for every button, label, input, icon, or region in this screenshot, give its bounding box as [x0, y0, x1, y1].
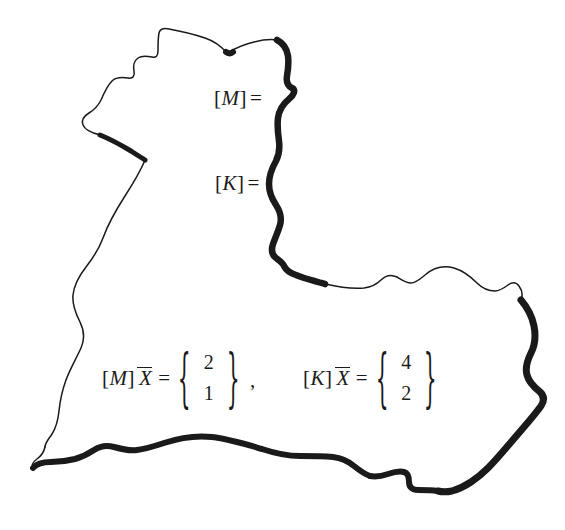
mass-label-close-bracket: ]	[240, 86, 248, 110]
blob-outline-thin-right-shoulder	[325, 267, 522, 300]
stiffness-eq-brace-open: {	[376, 346, 389, 410]
mass-eq-brace-close: }	[227, 346, 240, 410]
stiffness-label-equals: =	[245, 171, 260, 195]
stiffness-eq-close-bracket: ]	[325, 366, 333, 390]
blob-outline-thick-upper-left-wedge	[100, 135, 145, 160]
stiffness-label-open-bracket: [	[215, 171, 223, 195]
stiffness-eq-matrix-symbol: K	[311, 366, 326, 390]
stiffness-eq-value-1: 2	[401, 378, 411, 409]
mass-eq-vector-letter: X	[139, 366, 152, 390]
blob-outline-thick-bottom-right-notch	[370, 472, 438, 491]
figure-canvas: [M]= [K]= [M]X= { 2 1 } , [K]X= { 4 2 }	[0, 0, 565, 530]
mass-eq-matrix-symbol: M	[110, 366, 128, 390]
mass-eq-value-1: 1	[204, 378, 214, 409]
stiffness-label-close-bracket: ]	[237, 171, 245, 195]
mass-eq-brace-open: {	[178, 346, 191, 410]
blob-outline-thick-top-notch	[226, 52, 233, 54]
mass-equation-lhs: [M]X	[102, 368, 153, 389]
stiffness-eq-brace-close: }	[424, 346, 437, 410]
stiffness-equation: [K]X= { 4 2 }	[303, 347, 439, 409]
blob-outline-thin-top-right	[231, 40, 277, 51]
stiffness-eq-vector-letter: X	[337, 366, 350, 390]
blob-outline-graphic	[0, 0, 565, 530]
overline-bar	[137, 367, 152, 368]
stiffness-eq-value-0: 4	[401, 347, 411, 378]
mass-eq-vector-symbol: X	[138, 368, 153, 389]
blob-outline-thick-right-bulge	[438, 300, 543, 492]
stiffness-matrix-label: [K]=	[215, 173, 260, 194]
blob-outline-thick-bottom-edge	[33, 436, 370, 476]
equation-separator-comma: ,	[250, 370, 255, 391]
overline-bar	[335, 367, 350, 368]
mass-eq-close-bracket: ]	[128, 366, 136, 390]
stiffness-equation-lhs: [K]X	[303, 368, 351, 389]
blob-outline-thin-path	[82, 29, 227, 135]
mass-eq-open-bracket: [	[102, 366, 110, 390]
stiffness-eq-vector-symbol: X	[336, 368, 351, 389]
blob-outline-thick-right-edge	[269, 40, 325, 284]
mass-matrix-label: [M]=	[214, 88, 262, 109]
mass-equation: [M]X= { 2 1 }	[102, 347, 241, 409]
stiffness-eq-equals: =	[356, 368, 368, 389]
mass-eq-column-vector: 2 1	[195, 347, 223, 409]
mass-eq-value-0: 2	[204, 347, 214, 378]
stiffness-eq-column-vector: 4 2	[392, 347, 420, 409]
stiffness-label-symbol: K	[223, 171, 238, 195]
mass-eq-equals: =	[158, 368, 170, 389]
mass-label-equals: =	[247, 86, 262, 110]
mass-label-open-bracket: [	[214, 86, 222, 110]
stiffness-eq-open-bracket: [	[303, 366, 311, 390]
mass-label-symbol: M	[222, 86, 240, 110]
